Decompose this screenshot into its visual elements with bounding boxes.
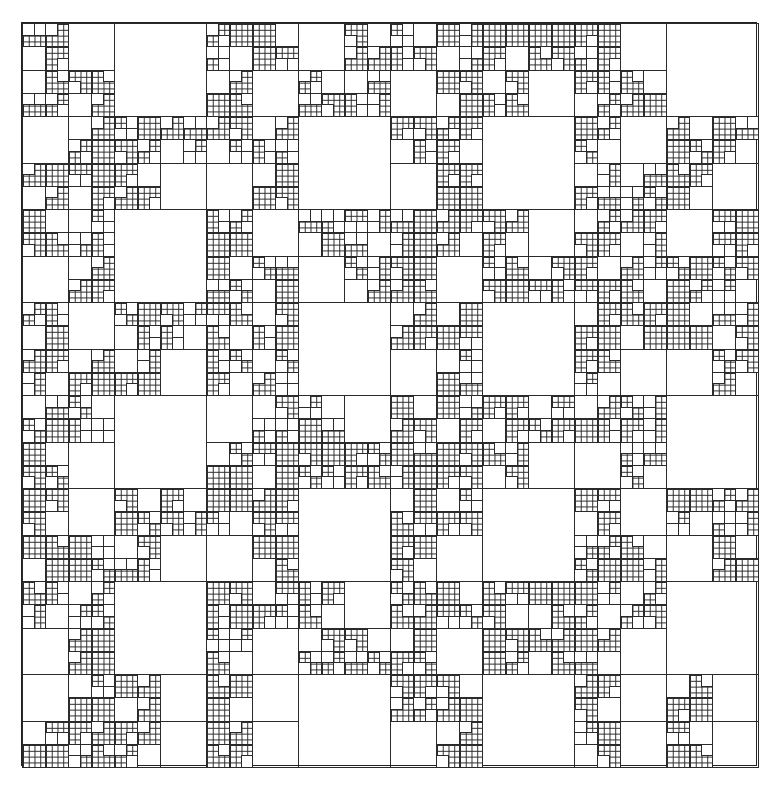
quarter-empty-square [735, 372, 759, 396]
small-empty-square [367, 279, 380, 292]
fine-grid-block [252, 442, 276, 466]
fine-grid-block [574, 697, 598, 721]
fine-grid-block [344, 46, 368, 70]
fine-grid-block [252, 46, 276, 70]
fine-grid-block [712, 511, 736, 535]
fine-grid-block [643, 209, 667, 233]
fine-grid-block [505, 209, 529, 233]
fine-grid-block [22, 535, 46, 559]
fine-grid-block [206, 232, 230, 256]
fine-grid-block [666, 256, 690, 280]
fine-grid-block [68, 232, 92, 256]
fine-grid-block [68, 744, 92, 768]
fine-grid-block [137, 186, 161, 210]
fine-grid-block [91, 93, 115, 117]
fine-grid-block [505, 418, 529, 442]
quarter-empty-square [367, 232, 391, 256]
fine-grid-block [459, 349, 483, 373]
fine-grid-block [367, 70, 391, 94]
medium-empty-square [390, 349, 437, 397]
fine-grid-block [229, 581, 253, 605]
fine-grid-block [482, 93, 506, 117]
fine-grid-block [22, 93, 46, 117]
quarter-empty-square [666, 674, 690, 698]
fine-grid-block [505, 93, 529, 117]
fine-grid-block [275, 279, 299, 303]
fine-grid-block [459, 209, 483, 233]
fine-grid-block [229, 302, 253, 326]
small-empty-square [160, 116, 173, 129]
fine-grid-block [229, 604, 253, 628]
fine-grid-block [551, 23, 575, 47]
fine-grid-block [735, 256, 759, 280]
fine-grid-block [45, 232, 69, 256]
fine-grid-block [367, 651, 391, 675]
quarter-empty-square [68, 93, 92, 117]
fine-grid-block [344, 442, 368, 466]
fine-grid-block [229, 116, 253, 140]
fine-grid-block [298, 581, 322, 605]
large-empty-square [114, 23, 207, 117]
fine-grid-block [390, 697, 414, 721]
fine-grid-block [459, 395, 483, 419]
fine-grid-block [390, 511, 414, 535]
fine-grid-block [91, 209, 115, 233]
quarter-empty-square [229, 325, 253, 349]
fine-grid-block [137, 674, 161, 698]
fine-grid-block [597, 558, 621, 582]
fine-grid-block [229, 232, 253, 256]
fine-grid-block [666, 302, 690, 326]
large-empty-square [114, 395, 207, 489]
fine-grid-block [666, 697, 690, 721]
large-empty-square [298, 674, 391, 768]
quarter-empty-square [229, 697, 253, 721]
fine-grid-block [574, 651, 598, 675]
fine-grid-block [643, 302, 667, 326]
fine-grid-block [45, 418, 69, 442]
fine-grid-block [45, 23, 69, 47]
fine-grid-block [643, 558, 667, 582]
fine-grid-block [459, 302, 483, 326]
fine-grid-block [114, 139, 138, 163]
small-empty-square [68, 651, 81, 664]
quarter-empty-square [459, 581, 483, 605]
medium-empty-square [22, 256, 69, 304]
fine-grid-block [206, 349, 230, 373]
fine-grid-block [229, 442, 253, 466]
quarter-empty-square [252, 116, 276, 140]
fine-grid-block [252, 23, 276, 47]
quarter-empty-square [436, 721, 460, 745]
quarter-empty-square [689, 721, 713, 745]
fine-grid-block [459, 23, 483, 47]
fine-grid-block [22, 511, 46, 535]
small-empty-square [45, 186, 58, 199]
fine-grid-block [712, 139, 736, 163]
quarter-empty-square [252, 302, 276, 326]
fine-grid-block [482, 279, 506, 303]
fine-grid-block [459, 325, 483, 349]
fine-grid-block [574, 721, 598, 745]
fine-grid-block [137, 372, 161, 396]
fine-grid-block [45, 581, 69, 605]
fine-grid-block [689, 325, 713, 349]
medium-empty-square [528, 442, 575, 490]
fine-grid-block [620, 535, 644, 559]
fine-grid-block [229, 23, 253, 47]
fine-grid-block [597, 628, 621, 652]
small-empty-square [344, 46, 357, 59]
fine-grid-block [160, 325, 184, 349]
fine-grid-block [22, 488, 46, 512]
quarter-empty-square [22, 325, 46, 349]
fine-grid-block [45, 488, 69, 512]
fine-grid-block [91, 721, 115, 745]
fine-grid-block [735, 116, 759, 140]
quarter-empty-square [45, 372, 69, 396]
fine-grid-block [574, 46, 598, 70]
fine-grid-block [413, 628, 437, 652]
fine-grid-block [229, 721, 253, 745]
fine-grid-block [413, 279, 437, 303]
small-empty-square [68, 279, 81, 292]
fine-grid-block [45, 744, 69, 768]
quarter-empty-square [597, 372, 621, 396]
fine-grid-block [597, 279, 621, 303]
